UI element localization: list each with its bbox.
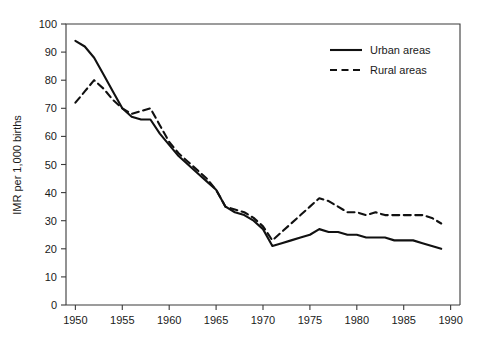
legend-label-urban-areas: Urban areas — [370, 44, 431, 56]
y-tick-label: 100 — [39, 18, 57, 30]
y-axis-title: IMR per 1,000 births — [11, 115, 23, 215]
y-tick-label: 90 — [45, 46, 57, 58]
y-tick-label: 0 — [51, 299, 57, 311]
y-tick-label: 50 — [45, 159, 57, 171]
x-tick-label: 1985 — [391, 314, 415, 326]
x-tick-label: 1975 — [298, 314, 322, 326]
chart-figure: 0102030405060708090100 19501955196019651… — [0, 0, 477, 347]
x-tick-label: 1955 — [110, 314, 134, 326]
y-tick-label: 30 — [45, 215, 57, 227]
x-axis-tick-labels: 195019551960196519701975198019851990 — [63, 314, 463, 326]
line-chart: 0102030405060708090100 19501955196019651… — [0, 0, 477, 347]
y-tick-label: 20 — [45, 243, 57, 255]
y-tick-label: 10 — [45, 271, 57, 283]
x-tick-label: 1980 — [345, 314, 369, 326]
legend-label-rural-areas: Rural areas — [370, 64, 427, 76]
y-tick-label: 80 — [45, 74, 57, 86]
x-tick-label: 1965 — [204, 314, 228, 326]
y-tick-label: 70 — [45, 102, 57, 114]
x-tick-label: 1960 — [157, 314, 181, 326]
x-tick-label: 1990 — [438, 314, 462, 326]
y-tick-label: 40 — [45, 187, 57, 199]
y-tick-label: 60 — [45, 130, 57, 142]
x-tick-label: 1970 — [251, 314, 275, 326]
x-tick-label: 1950 — [63, 314, 87, 326]
